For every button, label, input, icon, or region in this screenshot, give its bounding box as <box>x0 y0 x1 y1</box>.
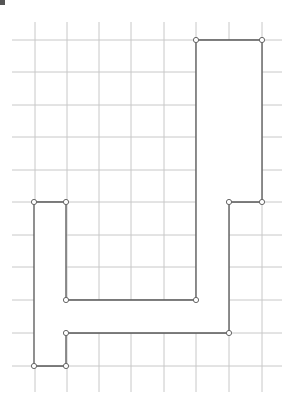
vertex-marker <box>31 199 36 204</box>
vertex-marker <box>226 199 231 204</box>
vertex-marker <box>193 297 198 302</box>
grid-diagram <box>0 0 301 408</box>
vertex-marker <box>63 297 68 302</box>
vertex-marker <box>193 37 198 42</box>
vertex-marker <box>63 363 68 368</box>
vertex-marker <box>63 330 68 335</box>
vertex-marker <box>63 199 68 204</box>
vertex-marker <box>31 363 36 368</box>
vertex-marker <box>259 199 264 204</box>
vertex-marker <box>259 37 264 42</box>
vertex-marker <box>226 330 231 335</box>
